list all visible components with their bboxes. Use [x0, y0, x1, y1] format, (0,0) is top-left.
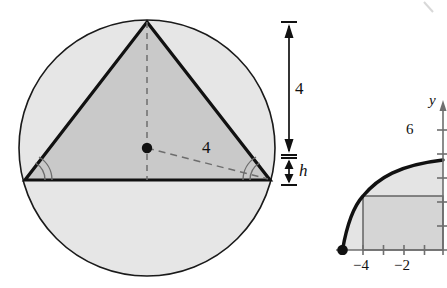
- y-axis-label: y: [429, 93, 436, 108]
- circle-triangle-group: [19, 20, 297, 276]
- dimension-h-label: h: [299, 162, 308, 179]
- dimension-4-arrow-down: [285, 139, 294, 153]
- x-tick-label--2: −2: [394, 258, 410, 273]
- center-dot: [142, 143, 152, 153]
- curve-endpoint-dot: [337, 245, 348, 256]
- scan-artifact-mark: [424, 2, 433, 12]
- dimension-h-arrow-up: [285, 160, 294, 170]
- dimension-h-group: [281, 158, 297, 185]
- dimension-4-label: 4: [295, 80, 304, 97]
- radius-label: 4: [202, 139, 211, 156]
- x-tick-label--4: −4: [353, 258, 369, 273]
- dimension-h-arrow-down: [285, 174, 294, 184]
- figure-svg: [0, 0, 447, 288]
- y-axis-arrowhead: [440, 100, 447, 111]
- y-tick-label-6: 6: [406, 122, 414, 137]
- inscribed-rectangle: [363, 196, 443, 250]
- figure-canvas: 4 4 h y 6 −4 −2: [0, 0, 447, 288]
- dimension-4-arrow-up: [285, 24, 294, 38]
- plot-group: [336, 100, 447, 257]
